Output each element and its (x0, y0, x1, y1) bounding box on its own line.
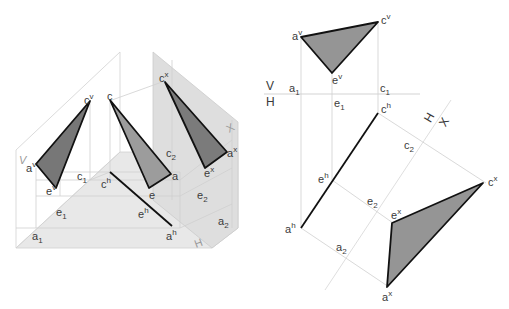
svg-text:cx: cx (488, 174, 498, 188)
svg-text:eh: eh (318, 171, 329, 185)
svg-text:a2: a2 (336, 241, 347, 256)
svg-text:ev: ev (46, 183, 56, 197)
triangle-x-projection-ortho (387, 183, 483, 287)
label-axis-hx-h: H (421, 110, 437, 125)
label-axis-hx-x: X (436, 115, 452, 129)
h-projection-line-ortho (301, 113, 378, 228)
svg-text:c2: c2 (404, 139, 415, 154)
label-axis-h: H (266, 95, 275, 109)
svg-text:a1: a1 (289, 82, 300, 97)
label-axis-v: V (266, 79, 274, 93)
svg-text:c1: c1 (380, 82, 391, 97)
svg-text:ev: ev (332, 72, 342, 86)
svg-text:e2: e2 (367, 195, 378, 210)
svg-text:e: e (149, 189, 155, 201)
triangle-v-projection-ortho (301, 22, 378, 73)
svg-text:cv: cv (84, 92, 94, 106)
svg-text:ax: ax (382, 289, 392, 303)
svg-text:a: a (172, 170, 179, 182)
svg-text:ah: ah (285, 221, 296, 235)
orthographic-view: V H H X av cv ev a1 e1 c1 ch c2 eh e2 ex… (264, 12, 498, 303)
svg-text:c: c (107, 90, 113, 102)
descriptive-geometry-figure: V X H cv c cx av ev c1 ch c2 a e ax ex e… (0, 0, 509, 309)
svg-text:e1: e1 (334, 97, 345, 112)
construction-lines-orthographic (264, 22, 486, 290)
svg-text:av: av (26, 160, 36, 174)
svg-text:ch: ch (381, 101, 391, 115)
pictorial-view: V X H cv c cx av ev c1 ch c2 a e ax ex e… (16, 52, 238, 250)
svg-text:cv: cv (381, 12, 391, 26)
